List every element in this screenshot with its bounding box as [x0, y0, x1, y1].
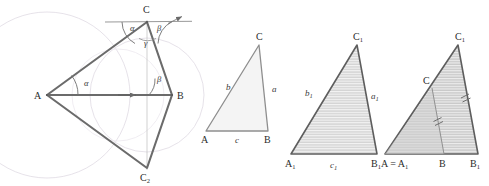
panel-construction: A B C C2 α β α β γ — [0, 4, 204, 184]
label-vertex-B: B — [177, 90, 184, 101]
label-vertex-B-4: B — [439, 158, 446, 169]
label-side-a1: a1 — [371, 91, 379, 102]
label-vertex-C1-4: C1 — [455, 31, 465, 43]
vertex-dot-A — [46, 94, 48, 96]
label-vertex-B-2: B — [264, 134, 271, 145]
label-side-c: c — [235, 135, 239, 145]
label-vertex-A-equals-A1: A = A1 — [381, 158, 408, 170]
panel-triangle-abc: A B C a b c — [201, 31, 277, 145]
label-vertex-B1-4: B1 — [470, 158, 480, 170]
panel-superimposed: A = A1 B B1 C C1 — [381, 31, 480, 170]
label-vertex-A: A — [34, 90, 42, 101]
horizontal-line-through-C — [105, 21, 192, 22]
label-angle-beta-at-B: β — [156, 74, 162, 84]
label-side-b1: b1 — [305, 88, 313, 99]
label-vertex-C-4: C — [423, 75, 430, 86]
triangle-A1B1C1-shape — [291, 45, 377, 154]
label-angle-beta-at-C: β — [156, 23, 162, 33]
label-side-a: a — [272, 84, 277, 94]
panel-triangle-a1b1c1: A1 B1 C1 a1 b1 c1 — [285, 31, 381, 171]
label-vertex-C: C — [143, 4, 150, 15]
label-vertex-C2: C2 — [140, 172, 150, 184]
vertex-dot-C — [146, 21, 148, 23]
label-vertex-A1: A1 — [285, 158, 295, 170]
label-angle-alpha-at-A: α — [84, 78, 89, 88]
triangle-ABC2-outline — [47, 95, 172, 168]
label-vertex-C1: C1 — [353, 31, 363, 43]
vertex-dot-B — [171, 94, 173, 96]
label-vertex-A-2: A — [201, 134, 209, 145]
label-vertex-B1: B1 — [371, 158, 381, 170]
label-side-c1: c1 — [330, 160, 337, 171]
label-angle-gamma-at-C: γ — [144, 38, 148, 48]
angle-arc-beta-at-B — [149, 79, 155, 96]
label-vertex-C-2: C — [256, 31, 263, 42]
geometry-figure-canvas: A B C C2 α β α β γ A B C a b c A1 B1 C1 — [0, 0, 489, 186]
label-side-b: b — [226, 82, 231, 92]
label-angle-alpha-at-C: α — [130, 23, 135, 33]
diagram-svg: A B C C2 α β α β γ A B C a b c A1 B1 C1 — [0, 0, 489, 186]
triangle-ABC-shape — [206, 45, 268, 131]
triangle-ABC-outline — [47, 22, 172, 95]
